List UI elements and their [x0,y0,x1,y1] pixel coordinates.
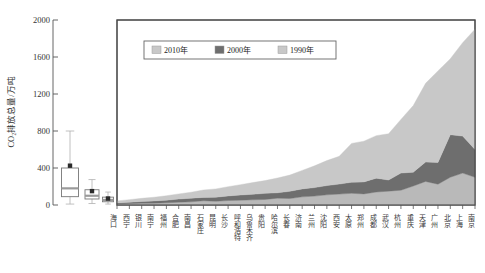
x-tick-label: 西宁 [123,214,131,228]
y-axis-title: CO₂排放总量/万吨 [6,76,16,147]
mean-marker [106,196,110,200]
boxplot-1 [62,131,79,204]
legend-swatch [215,46,224,54]
y-tick-label: 1600 [33,52,50,62]
x-tick-label: 兰州 [308,213,316,228]
x-tick-label: 天津 [419,214,427,229]
x-tick-label: 贵阳 [258,213,266,229]
x-tick-label: 银川 [135,213,143,228]
x-tick-label: 成都 [370,213,378,229]
x-tick-label: 西安 [333,214,341,229]
x-tick-label: 北京 [444,214,452,229]
y-tick-label: 0 [46,200,50,210]
x-tick-label: 南宁 [147,213,155,228]
x-tick-label: 呼和浩特 [234,213,242,241]
x-tick-label: 上海 [456,213,464,229]
legend-swatch [278,46,287,54]
x-axis-ticks [117,205,475,209]
y-axis-ticks: 0400800120016002000 [33,15,58,210]
x-tick-label: 郑州 [357,214,365,228]
x-tick-label: 武汉 [382,213,390,229]
x-tick-label: 重庆 [407,214,415,229]
x-tick-label: 南京 [468,213,476,229]
x-tick-label: 合肥 [172,213,180,229]
legend-item-2010年: 2010年 [152,45,188,55]
chart-figure: 0400800120016002000 CO₂排放总量/万吨 海口西宁银川南宁福… [0,0,485,273]
chart-canvas: 0400800120016002000 CO₂排放总量/万吨 海口西宁银川南宁福… [0,0,485,273]
y-tick-label: 2000 [33,15,50,25]
x-tick-label: 哈尔滨 [271,213,279,235]
legend-label: 1990年 [290,45,314,55]
legend: 2010年2000年1990年 [144,41,336,59]
x-tick-label: 沈阳 [320,213,328,229]
x-tick-label: 济南 [295,213,303,228]
legend-label: 2010年 [164,45,188,55]
x-tick-label: 海口 [110,213,118,228]
x-tick-label: 太原 [345,213,353,228]
x-tick-label: 石家庄 [197,214,205,235]
x-tick-label: 南昌 [184,213,192,229]
x-tick-label: 乌鲁木齐 [246,213,254,242]
box-iqr [62,168,79,197]
x-tick-label: 昆明 [209,214,217,229]
legend-items: 2010年2000年1990年 [152,45,314,55]
boxplot-group [62,131,114,204]
legend-swatch [152,46,161,54]
y-tick-label: 800 [37,126,50,136]
y-tick-label: 1200 [33,89,50,99]
x-tick-label: 广州 [431,213,439,228]
legend-label: 2000年 [227,45,251,55]
legend-item-1990年: 1990年 [278,45,314,55]
legend-item-2000年: 2000年 [215,45,251,55]
y-tick-label: 400 [37,163,50,173]
y-axis: 0400800120016002000 CO₂排放总量/万吨 [6,15,58,210]
boxplot-3 [103,192,114,204]
x-tick-label: 杭州 [394,213,402,228]
x-tick-label: 长沙 [221,213,229,228]
mean-marker [90,189,94,193]
boxplot-2 [85,180,99,204]
x-tick-label: 福州 [160,213,168,228]
x-tick-label: 长春 [283,213,291,229]
x-axis-labels: 海口西宁银川南宁福州合肥南昌石家庄昆明长沙呼和浩特乌鲁木齐贵阳哈尔滨长春济南兰州… [110,213,476,242]
mean-marker [68,163,72,167]
